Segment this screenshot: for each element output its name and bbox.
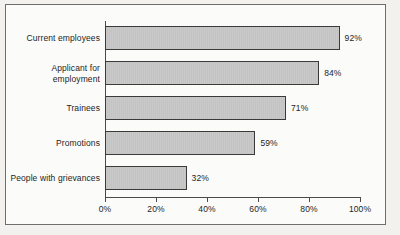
x-axis-tick-label: 60% — [249, 204, 266, 214]
category-label: Promotions — [4, 138, 100, 149]
bar-value-label: 59% — [260, 138, 277, 148]
x-axis-tick — [309, 198, 310, 202]
plot-area: Current employees 92% Applicant for empl… — [105, 21, 360, 197]
x-axis-tick — [156, 198, 157, 202]
x-axis-tick-label: 20% — [147, 204, 164, 214]
x-axis-tick-label: 80% — [300, 204, 317, 214]
category-label: Applicant for employment — [4, 63, 100, 84]
bar-value-label: 84% — [324, 68, 341, 78]
bar[interactable] — [105, 26, 340, 50]
category-label: Current employees — [4, 33, 100, 44]
category-label: People with grievances — [4, 173, 100, 184]
bar-value-label: 32% — [192, 173, 209, 183]
bar[interactable] — [105, 131, 255, 155]
bar-value-label: 71% — [291, 103, 308, 113]
x-axis-line — [105, 197, 361, 198]
bar[interactable] — [105, 96, 286, 120]
x-axis-tick — [207, 198, 208, 202]
x-axis-tick-label: 100% — [349, 204, 371, 214]
x-axis-tick — [258, 198, 259, 202]
x-axis-tick — [105, 198, 106, 202]
bar[interactable] — [105, 166, 187, 190]
x-axis-tick — [360, 198, 361, 202]
x-axis-tick-label: 40% — [198, 204, 215, 214]
chart-frame: Current employees 92% Applicant for empl… — [5, 4, 386, 225]
bar-value-label: 92% — [345, 33, 362, 43]
bar[interactable] — [105, 61, 319, 85]
category-label: Trainees — [4, 103, 100, 114]
x-axis-tick-label: 0% — [99, 204, 112, 214]
